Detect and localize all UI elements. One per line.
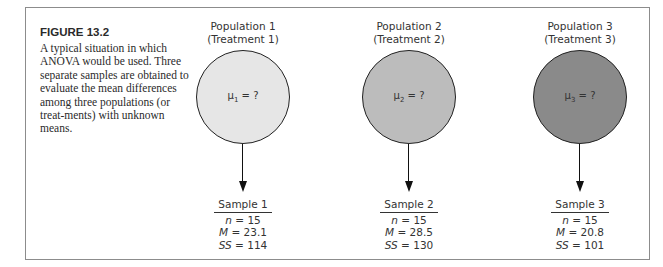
sample-1-mean: M = 23.1: [183, 226, 303, 239]
sample-1-title: Sample 1: [214, 198, 271, 213]
sample-2-mean: M = 28.5: [349, 226, 469, 239]
arrow-2-shaft: [408, 144, 409, 184]
sample-3-n: n = 15: [520, 214, 640, 227]
population-2-circle: μ2 = ?: [362, 50, 456, 144]
figure-caption-text: A typical situation in which ANOVA would…: [40, 42, 190, 136]
figure-label: FIGURE 13.2: [40, 26, 190, 38]
sample-1-ss: SS = 114: [183, 239, 303, 252]
arrow-down-icon: [405, 181, 413, 192]
sample-3-mean: M = 20.8: [520, 226, 640, 239]
sample-2-title: Sample 2: [380, 198, 437, 213]
sample-2-n: n = 15: [349, 214, 469, 227]
sample-2: Sample 2 n = 15 M = 28.5 SS = 130: [349, 198, 469, 251]
arrow-1-shaft: [242, 144, 243, 184]
arrow-down-icon: [239, 181, 247, 192]
population-1-label: Population 1 (Treatment 1): [183, 20, 303, 46]
arrow-down-icon: [576, 181, 584, 192]
sample-3-ss: SS = 101: [520, 239, 640, 252]
sample-3: Sample 3 n = 15 M = 20.8 SS = 101: [520, 198, 640, 251]
population-3-mean: μ3 = ?: [565, 90, 596, 104]
population-3-subtitle: (Treatment 3): [520, 33, 640, 46]
arrow-3-shaft: [579, 144, 580, 184]
sample-3-title: Sample 3: [551, 198, 608, 213]
population-2-label: Population 2 (Treatment 2): [349, 20, 469, 46]
population-1-circle: μ1 = ?: [196, 50, 290, 144]
population-1-subtitle: (Treatment 1): [183, 33, 303, 46]
population-2-title: Population 2: [349, 20, 469, 33]
population-1-mean: μ1 = ?: [228, 90, 259, 104]
population-3-title: Population 3: [520, 20, 640, 33]
sample-2-ss: SS = 130: [349, 239, 469, 252]
population-2-mean: μ2 = ?: [394, 90, 425, 104]
sample-1-n: n = 15: [183, 214, 303, 227]
population-3-label: Population 3 (Treatment 3): [520, 20, 640, 46]
population-1-title: Population 1: [183, 20, 303, 33]
sample-1: Sample 1 n = 15 M = 23.1 SS = 114: [183, 198, 303, 251]
population-2-subtitle: (Treatment 2): [349, 33, 469, 46]
population-3-circle: μ3 = ?: [533, 50, 627, 144]
figure-caption: FIGURE 13.2 A typical situation in which…: [40, 26, 190, 136]
